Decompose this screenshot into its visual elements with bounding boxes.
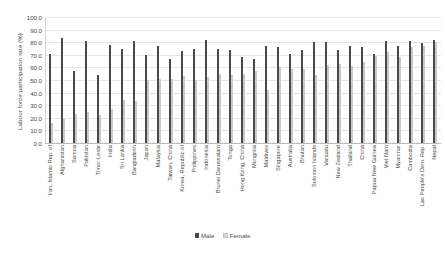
x-axis-category-label: New Zealand — [333, 145, 345, 225]
bar-female[interactable] — [315, 75, 317, 143]
bar-female[interactable] — [351, 66, 353, 143]
bar-group — [285, 17, 297, 143]
bar-group — [333, 17, 345, 143]
bar-female[interactable] — [207, 77, 209, 143]
bar-female[interactable] — [147, 80, 149, 143]
category-label-text: Sri Lanka — [120, 145, 126, 169]
category-label-text: Indonesia — [204, 145, 210, 170]
legend-item-male[interactable]: Male — [195, 232, 215, 239]
bar-group — [117, 17, 129, 143]
y-axis-tick-labels: 100.090.080.070.060.050.040.030.020.010.… — [0, 0, 42, 254]
bar-group — [321, 17, 333, 143]
bar-female[interactable] — [255, 71, 257, 143]
y-axis-tick-label: 60.0 — [4, 64, 42, 71]
x-axis-category-label: Singapore — [273, 145, 285, 225]
x-axis-category-label: Myanmar — [393, 145, 405, 225]
bar-female[interactable] — [51, 123, 53, 143]
bar-group — [417, 17, 429, 143]
bar-female[interactable] — [327, 65, 329, 143]
bar-group — [81, 17, 93, 143]
bar-female[interactable] — [435, 42, 437, 143]
category-label-text: Papua New Guinea — [372, 145, 378, 194]
category-label-text: Singapore — [276, 145, 282, 171]
bar-female[interactable] — [363, 62, 365, 143]
legend-swatch-male-icon — [195, 233, 199, 237]
bar-group — [69, 17, 81, 143]
y-axis-tick-label: 50.0 — [4, 77, 42, 84]
bar-female[interactable] — [291, 69, 293, 143]
x-axis-category-label: Brunei Darussalam — [213, 145, 225, 225]
bar-group — [213, 17, 225, 143]
category-label-text: Philippines — [192, 145, 198, 173]
category-label-text: Bhutan — [300, 145, 306, 163]
category-label-text: Japan — [144, 145, 150, 160]
bar-female[interactable] — [279, 67, 281, 143]
bar-group — [57, 17, 69, 143]
bar-female[interactable] — [219, 74, 221, 143]
x-axis-category-labels: Iran, Islamic Rep. ofAfghanistanSamoaPak… — [45, 145, 441, 225]
legend-swatch-female-icon — [223, 233, 227, 237]
bar-female[interactable] — [375, 56, 377, 143]
category-label-text: Brunei Darussalam — [216, 145, 222, 193]
bar-female[interactable] — [267, 90, 269, 143]
bar-female[interactable] — [339, 64, 341, 143]
category-label-text: Vanuatu — [324, 145, 330, 166]
x-axis-category-label: Taiwan, China — [165, 145, 177, 225]
x-axis-line — [45, 143, 441, 144]
x-axis-category-label: Lao People's Dem. Rep. — [417, 145, 429, 225]
category-label-text: Hong Kong, China — [240, 145, 246, 191]
x-axis-category-label: Nepal — [429, 145, 441, 225]
bar-female[interactable] — [123, 100, 125, 143]
bars-layer — [45, 17, 441, 143]
x-axis-category-label: Bangladesh — [129, 145, 141, 225]
x-axis-category-label: Iran, Islamic Rep. of — [45, 145, 57, 225]
category-label-text: Solomon Islands — [312, 145, 318, 187]
x-axis-category-label: Hong Kong, China — [237, 145, 249, 225]
bar-female[interactable] — [159, 79, 161, 143]
category-label-text: Cambodia — [408, 145, 414, 171]
bar-female[interactable] — [387, 52, 389, 143]
bar-female[interactable] — [411, 47, 413, 143]
x-axis-category-label: Mongolia — [249, 145, 261, 225]
legend-item-female[interactable]: Female — [223, 232, 250, 239]
category-label-text: Malaysia — [156, 145, 162, 167]
bar-group — [129, 17, 141, 143]
x-axis-category-label: India — [105, 145, 117, 225]
bar-group — [237, 17, 249, 143]
x-axis-category-label: Sri Lanka — [117, 145, 129, 225]
y-axis-tick-label: 20.0 — [4, 114, 42, 121]
bar-female[interactable] — [303, 69, 305, 143]
x-axis-category-label: Malaysia — [153, 145, 165, 225]
bar-female[interactable] — [195, 80, 197, 143]
bar-female[interactable] — [399, 57, 401, 143]
bar-female[interactable] — [135, 101, 137, 143]
bar-group — [105, 17, 117, 143]
category-label-text: Samoa — [72, 145, 78, 163]
bar-female[interactable] — [63, 119, 65, 143]
bar-group — [369, 17, 381, 143]
bar-female[interactable] — [111, 109, 113, 143]
x-axis-category-label: Pakistan — [81, 145, 93, 225]
bar-group — [261, 17, 273, 143]
bar-female[interactable] — [99, 115, 101, 143]
bar-female[interactable] — [171, 79, 173, 143]
bar-group — [165, 17, 177, 143]
bar-group — [381, 17, 393, 143]
labour-force-participation-bar-chart: Labour force participation rate (%) 100.… — [0, 0, 445, 254]
bar-group — [249, 17, 261, 143]
bar-female[interactable] — [75, 114, 77, 143]
bar-female[interactable] — [183, 76, 185, 143]
x-axis-category-label: Timor-Leste — [93, 145, 105, 225]
x-axis-category-label: Viet Nam — [381, 145, 393, 225]
bar-female[interactable] — [423, 46, 425, 143]
legend-label-male: Male — [201, 232, 214, 239]
x-axis-category-label: Maldives — [261, 145, 273, 225]
y-axis-tick-label: 100.0 — [4, 14, 42, 21]
bar-group — [93, 17, 105, 143]
bar-group — [429, 17, 441, 143]
bar-female[interactable] — [87, 112, 89, 144]
x-axis-category-label: Australia — [285, 145, 297, 225]
x-axis-category-label: Japan — [141, 145, 153, 225]
bar-female[interactable] — [231, 75, 233, 143]
bar-female[interactable] — [243, 74, 245, 143]
